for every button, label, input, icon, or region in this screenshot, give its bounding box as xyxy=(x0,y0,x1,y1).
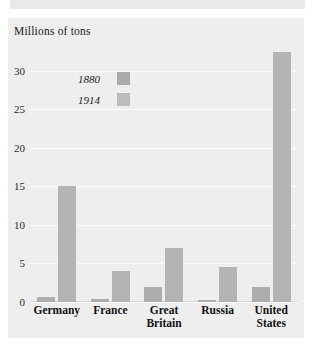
y-axis-tick-label: 10 xyxy=(14,219,25,230)
x-axis-label: United States xyxy=(244,304,298,330)
bar xyxy=(165,248,183,302)
x-axis-labels: GermanyFranceGreat BritainRussiaUnited S… xyxy=(30,304,298,338)
bar-group xyxy=(137,40,191,302)
x-axis-label: Germany xyxy=(30,304,84,317)
legend-label-1880: 1880 xyxy=(78,73,108,85)
bar xyxy=(252,287,270,302)
bar xyxy=(112,271,130,302)
y-axis-tick-label: 5 xyxy=(20,258,26,269)
plot-area: 051015202530 xyxy=(30,40,298,302)
bar xyxy=(144,287,162,302)
bar-series-container xyxy=(30,40,298,302)
bar-group xyxy=(30,40,84,302)
y-axis-title: Millions of tons xyxy=(14,25,91,37)
bar xyxy=(273,52,291,302)
x-axis-label: Russia xyxy=(191,304,245,317)
y-axis-tick-label: 30 xyxy=(14,65,25,76)
bar-group xyxy=(191,40,245,302)
y-axis-tick-label: 25 xyxy=(14,104,25,115)
bar xyxy=(91,299,109,302)
bar xyxy=(198,300,216,302)
y-axis-tick-label: 20 xyxy=(14,142,25,153)
bar-group xyxy=(244,40,298,302)
bar xyxy=(58,186,76,302)
legend: 1880 1914 xyxy=(78,70,130,112)
legend-swatch-1914 xyxy=(117,93,130,106)
y-axis-tick-label: 15 xyxy=(14,181,25,192)
gridline xyxy=(30,302,298,303)
chart-figure: Millions of tons 051015202530 GermanyFra… xyxy=(0,0,315,351)
legend-item: 1880 xyxy=(78,70,130,87)
bar xyxy=(37,297,55,302)
legend-item: 1914 xyxy=(78,91,130,108)
page-top-band xyxy=(10,0,305,9)
bar xyxy=(219,267,237,302)
legend-swatch-1880 xyxy=(117,72,130,85)
x-axis-label: France xyxy=(84,304,138,317)
legend-label-1914: 1914 xyxy=(78,94,108,106)
y-axis-tick-label: 0 xyxy=(20,297,26,308)
x-axis-label: Great Britain xyxy=(137,304,191,330)
